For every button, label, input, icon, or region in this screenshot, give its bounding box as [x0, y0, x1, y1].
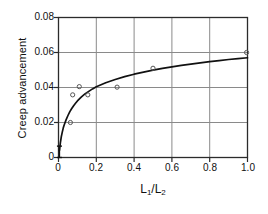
axis-ticks [54, 18, 248, 163]
data-point-marker [77, 85, 81, 89]
plot-area [0, 0, 268, 214]
origin-error-bar [57, 146, 62, 157]
data-point-marker [71, 93, 75, 97]
chart-figure: Creep advancement 0.08 0.06 0.04 0.02 0 … [0, 0, 268, 214]
gridlines [59, 18, 248, 158]
fitted-curve [59, 58, 247, 151]
data-point-marker [86, 93, 90, 97]
